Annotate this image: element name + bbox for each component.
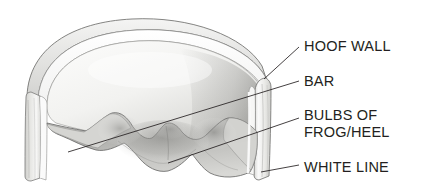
label-hoof-wall: HOOF WALL xyxy=(304,38,391,55)
figure-canvas: HOOF WALL BAR BULBS OFFROG/HEEL WHITE LI… xyxy=(0,0,436,194)
label-bulbs-line-2: FROG/HEEL xyxy=(304,124,390,140)
hoof-wall-left-band xyxy=(25,92,47,181)
leader-hoof-wall xyxy=(264,47,299,79)
label-white-line: WHITE LINE xyxy=(304,159,389,176)
label-bulbs-of-frog-heel: BULBS OFFROG/HEEL xyxy=(304,107,390,141)
label-bar: BAR xyxy=(304,73,334,90)
label-bulbs-line-1: BULBS OF xyxy=(304,107,377,123)
